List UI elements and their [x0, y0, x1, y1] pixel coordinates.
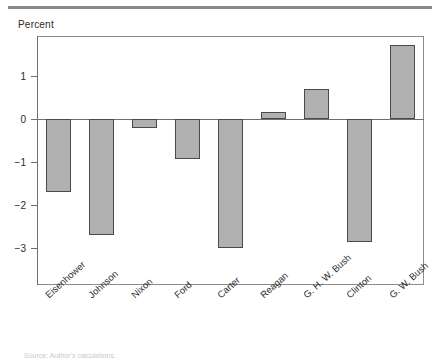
y-tick-label-1: 1 [4, 71, 26, 82]
bar-series [37, 36, 424, 285]
bar-nixon [132, 119, 158, 128]
bar-clinton [347, 119, 373, 242]
y-tick-label-minus1: −1 [4, 157, 26, 168]
bar-johnson [89, 119, 115, 235]
bar-g-w-bush [390, 45, 416, 119]
y-tick-label-minus2: −2 [4, 200, 26, 211]
top-divider-rule [8, 6, 432, 9]
y-tick-label-0: 0 [4, 114, 26, 125]
bar-ford [175, 119, 201, 159]
source-note: Source: Author’s calculations. [24, 352, 116, 359]
bar-reagan [261, 112, 287, 119]
bar-eisenhower [46, 119, 72, 192]
bar-g-h-w-bush [304, 89, 330, 119]
y-axis-title: Percent [18, 19, 54, 30]
bar-carter [218, 119, 244, 248]
x-axis-labels: EisenhowerJohnsonNixonFordCarterReaganG.… [37, 288, 437, 358]
y-tick-label-minus3: −3 [4, 243, 26, 254]
